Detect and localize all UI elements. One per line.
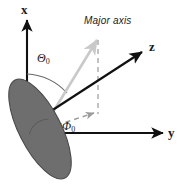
major-axis-annotation: Major axis xyxy=(84,16,132,26)
major-axis-line xyxy=(53,40,97,112)
theta-angle-label: Θ0 xyxy=(37,52,50,64)
z-axis-label: z xyxy=(149,40,155,53)
phi-angle-label: Φ0 xyxy=(62,120,75,132)
phi-subscript: 0 xyxy=(71,125,75,134)
phi-symbol: Φ xyxy=(62,119,71,133)
vector-diagram-figure: x y z Θ0 Φ0 Major axis xyxy=(0,0,183,189)
diagram-canvas xyxy=(0,0,183,189)
x-axis-label: x xyxy=(21,3,28,16)
theta-symbol: Θ xyxy=(37,51,46,65)
z-axis-line xyxy=(48,52,142,113)
y-axis-label: y xyxy=(168,126,175,139)
theta-subscript: 0 xyxy=(46,57,50,66)
